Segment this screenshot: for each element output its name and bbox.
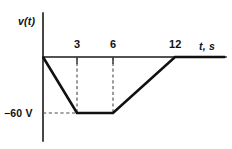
voltage-waveform — [43, 57, 225, 113]
x-axis-label: t, s — [199, 41, 215, 52]
x-tick-label-12: 12 — [169, 39, 182, 50]
y-value-label-minus-60: −60 V — [4, 108, 33, 119]
x-tick-label-6: 6 — [110, 39, 116, 50]
y-axis-label: v(t) — [18, 16, 35, 27]
waveform-figure: v(t) t, s 3 6 12 −60 V — [0, 0, 232, 149]
x-tick-label-3: 3 — [74, 39, 80, 50]
